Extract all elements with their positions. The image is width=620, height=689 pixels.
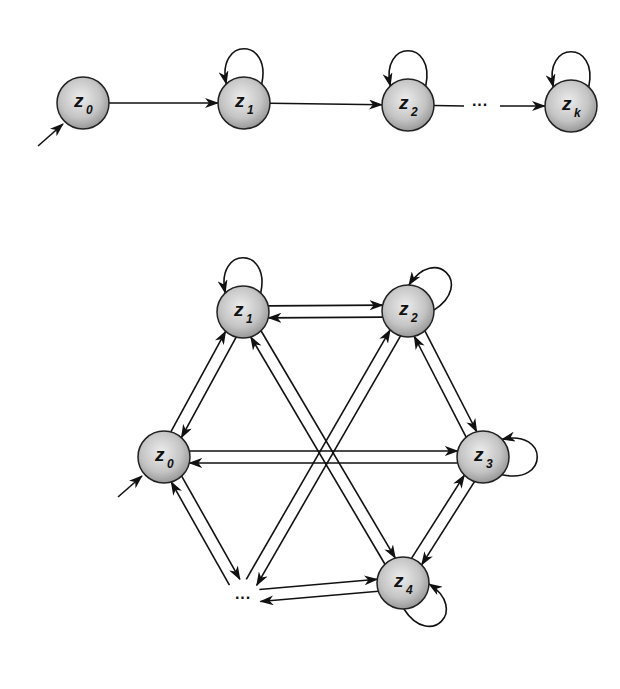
node-subscript: 4 bbox=[405, 583, 413, 597]
transition-arrow bbox=[171, 331, 226, 432]
node-label: z bbox=[234, 90, 245, 111]
node-subscript: 1 bbox=[246, 312, 253, 326]
transition-arrow bbox=[181, 337, 236, 438]
ellipsis-label: ··· bbox=[472, 96, 488, 113]
transition-arrow bbox=[260, 591, 378, 601]
transition-arrow bbox=[182, 476, 240, 579]
nodes-layer: z0z1z2zkz1z2z0z3z4 bbox=[57, 77, 597, 609]
state-node-z1: z1 bbox=[218, 77, 270, 129]
node-label: z bbox=[398, 92, 409, 113]
node-subscript: 1 bbox=[247, 103, 254, 117]
transition-arrow bbox=[414, 336, 466, 437]
state-node-z2: z2 bbox=[382, 79, 434, 131]
state-node-z2: z2 bbox=[382, 285, 434, 337]
state-node-z3: z3 bbox=[457, 431, 509, 483]
state-node-z0: z0 bbox=[138, 431, 190, 483]
initial-state-arrow bbox=[118, 476, 142, 497]
node-label: z bbox=[73, 90, 84, 111]
node-label: z bbox=[154, 444, 165, 465]
transition-arrow bbox=[411, 475, 464, 558]
transition-arrow bbox=[422, 482, 475, 565]
node-label: z bbox=[233, 299, 244, 320]
transition-arrow bbox=[434, 105, 464, 106]
state-diagram-canvas: z0z1z2zkz1z2z0z3z4 ······ bbox=[0, 0, 620, 689]
transition-arrow bbox=[268, 317, 382, 318]
node-label: z bbox=[561, 93, 572, 114]
node-label: z bbox=[473, 444, 484, 465]
state-node-z4: z4 bbox=[377, 557, 429, 609]
transition-arrow bbox=[270, 103, 382, 104]
initial-state-arrow bbox=[38, 124, 63, 146]
node-subscript: 0 bbox=[86, 103, 93, 117]
transition-arrow bbox=[261, 331, 395, 558]
node-label: z bbox=[393, 570, 404, 591]
node-subscript: 3 bbox=[486, 457, 493, 471]
transition-arrow bbox=[257, 336, 401, 585]
transition-arrow bbox=[259, 579, 377, 589]
node-subscript: 2 bbox=[410, 105, 418, 119]
state-node-z0: z0 bbox=[57, 77, 109, 129]
transition-arrow bbox=[171, 482, 229, 585]
node-label: z bbox=[398, 298, 409, 319]
transition-arrow bbox=[268, 305, 382, 306]
ellipsis-label: ··· bbox=[235, 589, 251, 606]
node-subscript: 0 bbox=[167, 457, 174, 471]
transition-arrow bbox=[425, 331, 477, 432]
state-node-z1: z1 bbox=[217, 286, 269, 338]
node-subscript: 2 bbox=[410, 311, 418, 325]
state-node-zk: zk bbox=[545, 80, 597, 132]
edges-layer bbox=[38, 103, 545, 601]
